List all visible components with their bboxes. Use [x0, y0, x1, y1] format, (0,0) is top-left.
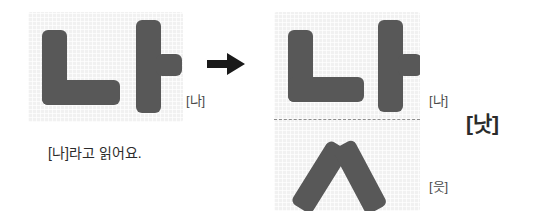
result-syllable-panel	[274, 12, 420, 211]
arrow-right-icon	[207, 53, 245, 75]
source-syllable-label: [나]	[186, 90, 205, 109]
left-jamo-a-nub-stroke	[156, 54, 182, 76]
right-jamo-nieun-horizontal-stroke	[288, 77, 364, 102]
left-jamo-nieun-horizontal-stroke	[42, 80, 120, 105]
result-bottom-part-label: [읏]	[429, 176, 448, 195]
reading-caption: [나]라고 읽어요.	[48, 142, 142, 162]
right-jamo-siot-right-stroke	[332, 139, 388, 211]
right-jamo-a-nub-stroke	[398, 54, 420, 76]
syllable-divider-line	[274, 119, 420, 120]
source-syllable-panel	[28, 12, 183, 122]
result-syllable-label: [낫]	[466, 107, 499, 137]
result-top-part-label: [나]	[429, 90, 448, 109]
